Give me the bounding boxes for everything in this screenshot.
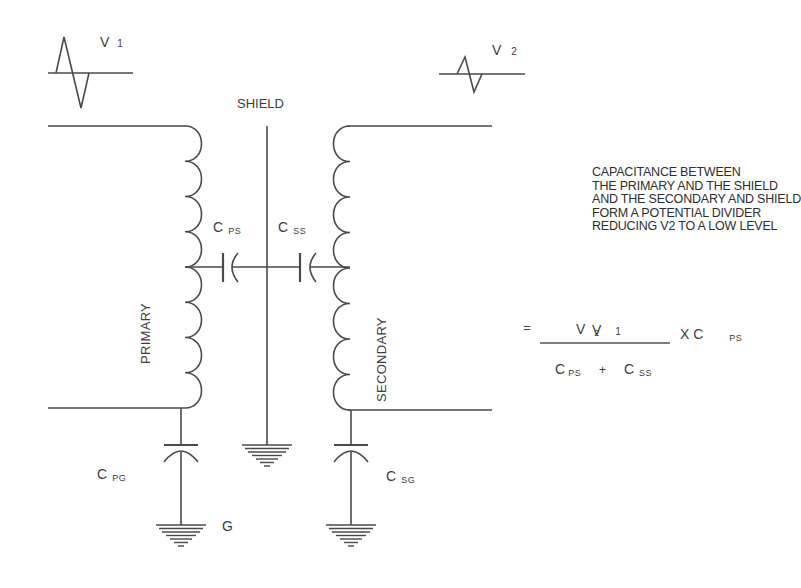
secondary-ground-icon bbox=[326, 525, 376, 546]
formula-num-main: V bbox=[592, 322, 601, 338]
formula-numerator: V1 bbox=[592, 323, 621, 337]
primary-ground-icon bbox=[156, 525, 206, 546]
cpg-label-sub: PG bbox=[112, 473, 126, 483]
v2-label-main: V bbox=[492, 42, 501, 58]
note-line: CAPACITANCE BETWEEN bbox=[592, 166, 801, 180]
formula-den-c2-sub: SS bbox=[639, 368, 652, 378]
cps-label-sub: PS bbox=[228, 226, 241, 236]
formula-den-c2: C bbox=[624, 361, 634, 377]
csg-label-sub: SG bbox=[401, 475, 415, 485]
shield-label: SHIELD bbox=[237, 97, 284, 110]
v2-waveform-icon bbox=[439, 57, 525, 92]
formula-times-sub: PS bbox=[729, 333, 742, 343]
formula-equals: = bbox=[523, 321, 531, 334]
formula-times: X CPS bbox=[680, 327, 742, 341]
formula-lhs-main: V bbox=[576, 321, 585, 337]
secondary-winding bbox=[334, 126, 493, 410]
v1-label-sub: 1 bbox=[117, 38, 123, 49]
primary-winding bbox=[48, 126, 202, 408]
formula-den-c1-sub: PS bbox=[568, 368, 581, 378]
v1-label: V1 bbox=[100, 35, 123, 49]
css-label: CSS bbox=[278, 220, 306, 234]
csg-label: CSG bbox=[386, 469, 415, 483]
formula-denominator: CPS + CSS bbox=[555, 362, 652, 376]
note-line: FORM A POTENTIAL DIVIDER bbox=[592, 207, 801, 221]
note-line: AND THE SECONDARY AND SHIELD bbox=[592, 193, 801, 207]
cps-label-main: C bbox=[213, 219, 223, 235]
csg-label-main: C bbox=[386, 468, 396, 484]
formula-plus: + bbox=[599, 363, 606, 377]
note-line: REDUCING V2 TO A LOW LEVEL bbox=[592, 220, 801, 234]
css-label-sub: SS bbox=[293, 226, 306, 236]
shield-ground-icon bbox=[242, 445, 292, 466]
ground-label: G bbox=[222, 519, 233, 533]
note-line: THE PRIMARY AND THE SHIELD bbox=[592, 180, 801, 194]
css-label-main: C bbox=[278, 219, 288, 235]
formula-den-c1: C bbox=[555, 361, 565, 377]
explanation-note: CAPACITANCE BETWEEN THE PRIMARY AND THE … bbox=[592, 166, 801, 234]
formula-times-text: X C bbox=[680, 326, 703, 342]
cps-capacitor bbox=[185, 253, 300, 282]
cpg-capacitor bbox=[164, 408, 198, 525]
csg-capacitor bbox=[334, 410, 368, 525]
v2-label: V2 bbox=[492, 43, 517, 57]
v1-label-main: V bbox=[100, 34, 109, 50]
formula-num-sub: 1 bbox=[615, 326, 621, 337]
primary-label: PRIMARY bbox=[138, 303, 153, 364]
css-capacitor bbox=[300, 253, 350, 282]
cps-label: CPS bbox=[213, 220, 241, 234]
cpg-label-main: C bbox=[97, 466, 107, 482]
cpg-label: CPG bbox=[97, 467, 126, 481]
v2-label-sub: 2 bbox=[511, 46, 517, 57]
secondary-label: SECONDARY bbox=[374, 317, 389, 402]
